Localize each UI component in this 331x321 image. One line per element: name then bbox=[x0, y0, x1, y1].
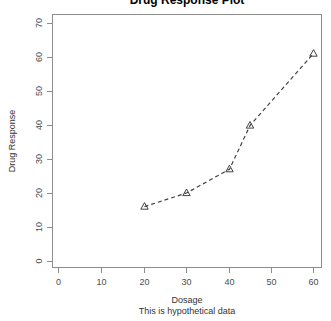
series-line-drug-response bbox=[145, 54, 314, 207]
y-axis-tick-labels: 70 60 50 40 30 20 10 0 bbox=[34, 18, 44, 264]
y-tick-label-40: 40 bbox=[34, 120, 44, 130]
series-markers bbox=[141, 50, 317, 210]
x-tick-label-20: 20 bbox=[139, 277, 149, 287]
x-tick-label-30: 30 bbox=[181, 277, 191, 287]
x-tick-label-60: 60 bbox=[308, 277, 318, 287]
y-tick-label-70: 70 bbox=[34, 18, 44, 28]
y-tick-label-30: 30 bbox=[34, 154, 44, 164]
x-tick-label-50: 50 bbox=[266, 277, 276, 287]
y-axis-title: Drug Response bbox=[7, 110, 17, 173]
y-tick-label-60: 60 bbox=[34, 52, 44, 62]
y-tick-label-50: 50 bbox=[34, 86, 44, 96]
x-tick-label-0: 0 bbox=[56, 277, 61, 287]
drug-response-line-chart: Drug Response Plot 70 60 50 40 30 20 10 … bbox=[0, 0, 331, 321]
y-tick-label-10: 10 bbox=[34, 222, 44, 232]
x-axis-ticks bbox=[59, 268, 314, 273]
y-tick-label-0: 0 bbox=[34, 258, 44, 263]
x-axis-title: Dosage bbox=[171, 295, 202, 305]
chart-canvas: Drug Response Plot 70 60 50 40 30 20 10 … bbox=[0, 0, 331, 321]
data-point-marker bbox=[310, 50, 317, 57]
y-axis-ticks bbox=[47, 24, 52, 262]
chart-title: Drug Response Plot bbox=[130, 0, 245, 7]
data-point-marker bbox=[183, 189, 190, 196]
chart-subtitle: This is hypothetical data bbox=[139, 306, 236, 316]
plot-frame bbox=[53, 15, 322, 268]
x-tick-label-40: 40 bbox=[224, 277, 234, 287]
x-axis-tick-labels: 0 10 20 30 40 50 60 bbox=[56, 277, 319, 287]
y-tick-label-20: 20 bbox=[34, 188, 44, 198]
x-tick-label-10: 10 bbox=[96, 277, 106, 287]
